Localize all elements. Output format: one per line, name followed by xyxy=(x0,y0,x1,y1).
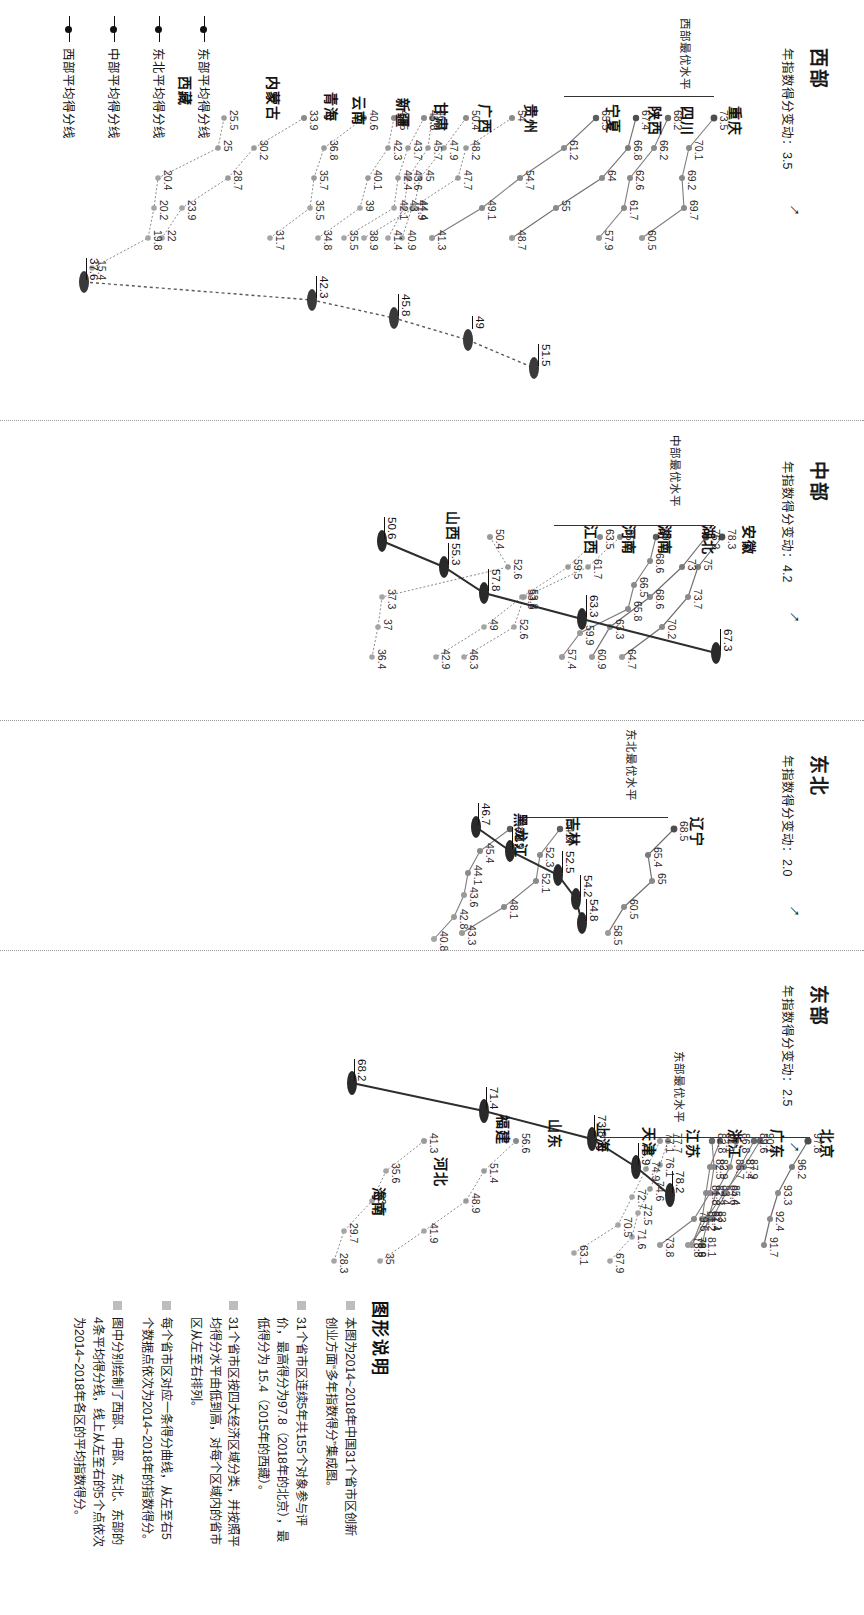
point-value-label: 65 xyxy=(656,873,668,885)
region-panel-central: 中部 年指数得分变动：4.2 → 中部最优水平 xyxy=(0,420,864,720)
point-value-label: 35.7 xyxy=(318,170,330,190)
legend-item: 31个省市区连续5年共155个对象参与评价，最高得分为97.8（2018年的北京… xyxy=(253,1301,310,1601)
point-value-label: 61.7 xyxy=(628,200,640,220)
avg-label-west-2017: 49 xyxy=(472,316,486,329)
point-value-label: 41.9 xyxy=(428,1223,440,1243)
point-value-label: 40.9 xyxy=(406,230,418,250)
point-value-label: 91.7 xyxy=(768,1237,780,1257)
point-value-label: 37.3 xyxy=(386,589,398,609)
point-value-label: 73 xyxy=(686,559,698,571)
key-label: 东北平均得分线 xyxy=(150,48,169,139)
point-value-label: 65.4 xyxy=(652,847,664,867)
point-value-label: 22 xyxy=(166,230,178,242)
point-value-label: 78.3 xyxy=(726,529,738,549)
legend-item-text: 31个省市区连续5年共155个对象参与评价，最高得分为97.8（2018年的北京… xyxy=(253,1317,310,1547)
point-value-label: 43.6 xyxy=(468,887,480,907)
series-label-fujian: 福建 xyxy=(494,1115,514,1145)
point-value-label: 31.7 xyxy=(274,230,286,250)
point-value-label: 48.9 xyxy=(470,1193,482,1213)
point-value-label: 40.8 xyxy=(438,931,450,951)
point-value-label: 36.4 xyxy=(376,649,388,669)
point-value-label: 54 xyxy=(516,110,528,122)
legend-item: 图中分别绘制了西部、中部、东北、东部的4条平均得分线，线上从左至右的5个点依次为… xyxy=(69,1301,126,1601)
point-value-label: 49 xyxy=(488,619,500,631)
point-value-label: 56.6 xyxy=(520,1133,532,1153)
point-value-label: 38.9 xyxy=(368,230,380,250)
point-value-label: 66.8 xyxy=(632,140,644,160)
point-value-label: 43.6 xyxy=(412,170,424,190)
central-plot xyxy=(0,421,864,721)
point-value-label: 47.9 xyxy=(448,140,460,160)
series-label-hebei: 河北 xyxy=(432,1157,452,1187)
region-panel-northeast: 东北 年指数得分变动：2.0 → 东北最优水平 xyxy=(0,720,864,950)
line-sample-icon xyxy=(159,16,160,42)
series-label-shandong: 山东 xyxy=(546,1119,566,1149)
series-label-jiangsu: 江苏 xyxy=(684,1129,704,1159)
point-value-label: 60.9 xyxy=(596,649,608,669)
point-value-label: 40.1 xyxy=(372,170,384,190)
point-value-label: 48.2 xyxy=(470,140,482,160)
point-value-label: 53.6 xyxy=(526,589,538,609)
point-value-label: 52.6 xyxy=(518,619,530,639)
bullet-icon xyxy=(229,1301,238,1310)
series-label-shanxi: 山西 xyxy=(444,511,464,541)
series-label-anhui: 安徽 xyxy=(740,525,760,555)
point-value-label: 23.9 xyxy=(186,200,198,220)
point-value-label: 64.7 xyxy=(626,649,638,669)
point-value-label: 41.4 xyxy=(392,230,404,250)
avg-label-northeast-2016: 52.5 xyxy=(562,851,576,873)
point-value-label: 71.6 xyxy=(636,1229,648,1249)
avg-label-west-2018: 51.5 xyxy=(538,344,552,366)
point-value-label: 52.6 xyxy=(512,559,524,579)
average-line-key: 东部平均得分线 东北平均得分线 中部平均得分线 西部平均得分线 xyxy=(34,16,214,139)
point-value-label: 39 xyxy=(364,200,376,212)
avg-label-west-2016: 45.8 xyxy=(398,294,412,316)
legend-item: 每个省市区对应一条得分曲线，从左至右5个数据点依次为2014~2018年的指数得… xyxy=(137,1301,175,1601)
point-value-label: 46.1 xyxy=(436,110,448,130)
avg-label-northeast-2018: 54.8 xyxy=(586,899,600,921)
point-value-label: 36.8 xyxy=(328,140,340,160)
point-value-label: 75 xyxy=(702,559,714,571)
point-value-label: 74.9 xyxy=(650,1161,662,1181)
point-value-label: 92.4 xyxy=(774,1211,786,1231)
point-value-label: 77.1 xyxy=(664,1133,676,1153)
point-value-label: 85.7 xyxy=(734,1159,746,1179)
point-value-label: 30.2 xyxy=(258,140,270,160)
key-row-east: 东部平均得分线 xyxy=(195,16,214,139)
key-row-northeast: 东北平均得分线 xyxy=(150,16,169,139)
point-value-label: 45.4 xyxy=(484,843,496,863)
avg-label-west-2015: 42.3 xyxy=(316,276,330,298)
point-value-label: 20.2 xyxy=(158,200,170,220)
legend-title: 图形说明 xyxy=(369,1301,394,1601)
point-value-label: 66.5 xyxy=(638,577,650,597)
avg-label-northeast-2014: 46.7 xyxy=(478,803,492,825)
point-value-label: 82.5 xyxy=(714,1159,726,1179)
line-sample-icon xyxy=(114,16,115,42)
point-value-label: 48.7 xyxy=(516,230,528,250)
point-value-label: 41.3 xyxy=(428,1133,440,1153)
series-label-yunnan: 云南 xyxy=(350,96,370,126)
point-value-label: 33.9 xyxy=(308,110,320,130)
point-value-label: 68.5 xyxy=(678,821,690,841)
point-value-label: 62.6 xyxy=(634,170,646,190)
point-value-label: 97.8 xyxy=(812,1133,824,1153)
point-value-label: 93.3 xyxy=(782,1185,794,1205)
point-value-label: 57.9 xyxy=(603,230,615,250)
point-value-label: 74.6 xyxy=(654,1181,666,1201)
point-value-label: 33.5 xyxy=(376,1193,388,1213)
avg-label-east-2015: 71.4 xyxy=(486,1087,500,1109)
line-sample-icon xyxy=(204,16,205,42)
point-value-label: 61.2 xyxy=(568,140,580,160)
point-value-label: 42.5 xyxy=(398,110,410,130)
point-value-label: 51.4 xyxy=(488,1163,500,1183)
point-value-label: 52.1 xyxy=(540,873,552,893)
point-value-label: 81.8 xyxy=(710,1185,722,1205)
point-value-label: 63.1 xyxy=(578,1245,590,1265)
series-label-neimenggu: 内蒙古 xyxy=(264,76,284,121)
legend-item: 31个省市区按四大经济区域分类，并按照平均得分水平由低到高，对每个区域内的省市区… xyxy=(186,1301,243,1601)
point-value-label: 37 xyxy=(382,619,394,631)
point-value-label: 67.4 xyxy=(640,110,652,130)
point-value-label: 76.2 xyxy=(710,529,722,549)
bullet-icon xyxy=(346,1301,355,1310)
point-value-label: 64 xyxy=(606,170,618,182)
